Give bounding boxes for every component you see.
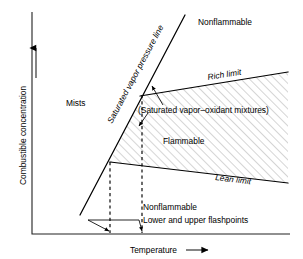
region-label-nonflammable-upper: Nonflammable (198, 17, 252, 27)
region-label-mists: Mists (66, 98, 86, 108)
diagram-canvas: Combustible concentration Temperature No… (0, 0, 303, 259)
x-axis-label: Temperature (130, 245, 177, 255)
flashpoints-leader-to-lower (88, 220, 109, 231)
flammable-region-hatch (110, 72, 288, 183)
flammability-diagram-figure: Combustible concentration Temperature No… (0, 0, 303, 259)
region-label-flammable: Flammable (163, 136, 205, 146)
y-axis-label: Combustible concentration (18, 85, 28, 185)
region-label-saturated-mixtures: (Saturated vapor–oxidant mixtures) (138, 105, 269, 115)
annotation-flashpoints: Lower and upper flashpoints (143, 215, 248, 225)
region-label-nonflammable-lower: Nonflammable (143, 202, 197, 212)
